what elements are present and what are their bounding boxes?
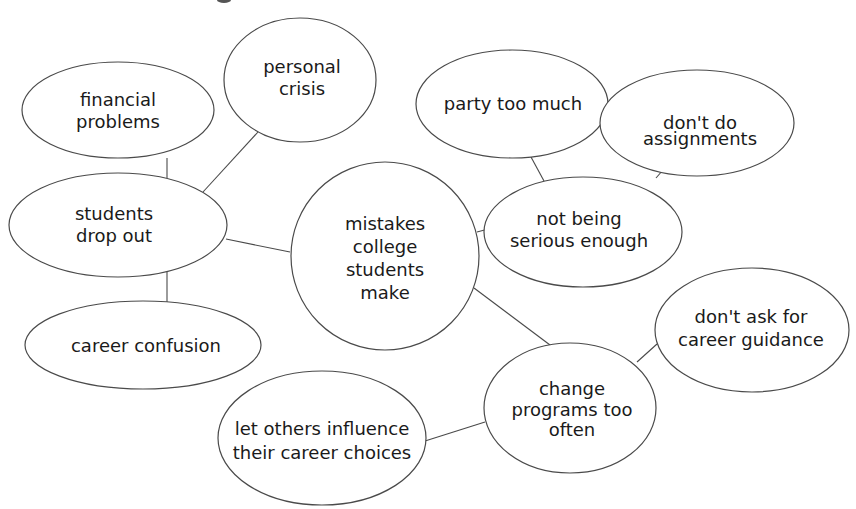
node-label-line: party too much xyxy=(444,93,582,114)
edge-mistakes-dropout xyxy=(226,239,290,252)
node-label-line: make xyxy=(360,282,409,303)
edge-change-guidance xyxy=(637,344,657,362)
edge-mistakes-change xyxy=(474,288,562,354)
node-label-line: students xyxy=(75,203,153,224)
node-label-line: drop out xyxy=(76,225,152,246)
edge-dropout-personal xyxy=(203,132,258,192)
node-label-line: career confusion xyxy=(71,335,221,356)
node-dont-do-assignments: don't do assignments xyxy=(600,70,794,176)
node-label-line: college xyxy=(353,236,418,257)
mind-map-canvas: financial problems personal crisis stude… xyxy=(0,0,856,509)
node-dont-ask-for-career-guidance: don't ask for career guidance xyxy=(655,268,849,392)
node-label-line: often xyxy=(549,419,596,440)
node-party-too-much: party too much xyxy=(416,50,608,158)
node-label-line: personal xyxy=(263,56,341,77)
node-label-line: crisis xyxy=(279,78,325,99)
node-label-line: change xyxy=(539,378,605,399)
node-personal-crisis: personal crisis xyxy=(224,18,376,142)
node-label-line: students xyxy=(346,259,424,280)
node-label-line: their career choices xyxy=(233,442,412,463)
cropped-title-remnant xyxy=(217,0,231,3)
node-central-mistakes: mistakes college students make xyxy=(291,162,479,350)
node-students-drop-out: students drop out xyxy=(9,173,227,277)
edge-serious-party xyxy=(531,157,544,181)
node-label-line: let others influence xyxy=(235,418,410,439)
node-label-line: serious enough xyxy=(510,230,648,251)
node-career-confusion: career confusion xyxy=(25,301,261,389)
node-label-line: assignments xyxy=(643,128,757,149)
node-label-line: problems xyxy=(76,111,160,132)
node-label-line: career guidance xyxy=(678,329,824,350)
node-let-others-influence: let others influence their career choice… xyxy=(218,371,426,505)
node-label-line: programs too xyxy=(511,399,632,420)
node-shape xyxy=(22,62,214,158)
node-label-line: mistakes xyxy=(345,213,425,234)
node-label-line: financial xyxy=(80,89,156,110)
edge-change-influence xyxy=(425,422,485,441)
node-label-line: don't ask for xyxy=(695,306,808,327)
node-label-line: not being xyxy=(536,208,622,229)
node-financial-problems: financial problems xyxy=(22,62,214,158)
node-change-programs-too-often: change programs too often xyxy=(484,343,656,473)
node-not-being-serious-enough: not being serious enough xyxy=(484,177,682,287)
